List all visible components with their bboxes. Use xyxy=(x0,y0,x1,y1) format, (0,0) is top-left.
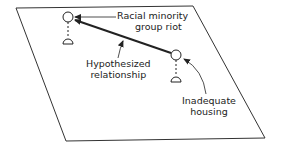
node-housing-label-line1: Inadequate xyxy=(182,95,236,106)
node-riot-label: Racial minority group riot xyxy=(117,10,188,32)
edge-label-line1: Hypothesized xyxy=(86,58,151,69)
node-riot-label-line1: Racial minority xyxy=(117,10,188,21)
edge-label: Hypothesized relationship xyxy=(86,58,151,80)
node-riot-circle xyxy=(63,12,73,22)
node-riot-dome-icon xyxy=(63,39,73,44)
node-housing-circle xyxy=(171,50,181,60)
node-housing-label-line2: housing xyxy=(182,106,236,117)
housing-label-pointer xyxy=(184,59,206,94)
node-riot-label-line2: group riot xyxy=(117,21,188,32)
node-housing-dome-icon xyxy=(171,77,181,82)
relationship-label-pointer xyxy=(118,41,123,58)
edge-label-line2: relationship xyxy=(86,69,151,80)
node-housing-label: Inadequate housing xyxy=(182,95,236,117)
